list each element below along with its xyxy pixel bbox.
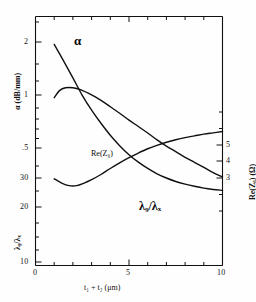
- curve-label-re-z0: Re(Z₀): [91, 149, 113, 158]
- impedance-tick-label-5: 5: [226, 140, 230, 149]
- curve-label-lambda-ratio: λ₉/λₓ: [139, 199, 161, 214]
- x-axis-title: t₁ + t₂ (μm): [84, 283, 120, 292]
- lambda-tick-label-30: 30: [20, 173, 28, 182]
- impedance-tick-label-4: 4: [226, 156, 230, 165]
- y-axis-title-lambda-ratio: λ₉/λₓ: [13, 235, 22, 250]
- axis-frame: [36, 17, 223, 266]
- y-axis-title-impedance: Re(Z₀) (Ω): [248, 164, 256, 200]
- impedance-tick-label-3: 3: [226, 173, 230, 182]
- alpha-tick-label-2: 2: [24, 37, 28, 46]
- x-tick-label-5: 5: [126, 268, 130, 277]
- x-tick-label-0: 0: [33, 268, 37, 277]
- x-axis-ticks: [36, 17, 223, 266]
- alpha-tick-label-0-5: .5: [22, 143, 28, 152]
- alpha-tick-label-1: 1: [24, 90, 28, 99]
- lambda-tick-label-20: 20: [20, 202, 28, 211]
- series-line-lambda-ratio: [54, 87, 222, 176]
- chart-plot-area: [0, 0, 256, 302]
- figure-container: 2 1 .5 30 20 10 5 4 3 0 5 10 α (dB/mm) λ…: [0, 0, 256, 302]
- left-axis-ticks: [36, 22, 42, 262]
- x-tick-label-10: 10: [217, 268, 225, 277]
- curve-label-alpha: α: [74, 33, 81, 49]
- y-axis-title-alpha: α (dB/mm): [13, 73, 22, 110]
- right-axis-ticks: [217, 112, 223, 211]
- series-line-alpha: [54, 44, 222, 190]
- series-line-re-z0: [54, 132, 222, 186]
- lambda-tick-label-10: 10: [20, 257, 28, 266]
